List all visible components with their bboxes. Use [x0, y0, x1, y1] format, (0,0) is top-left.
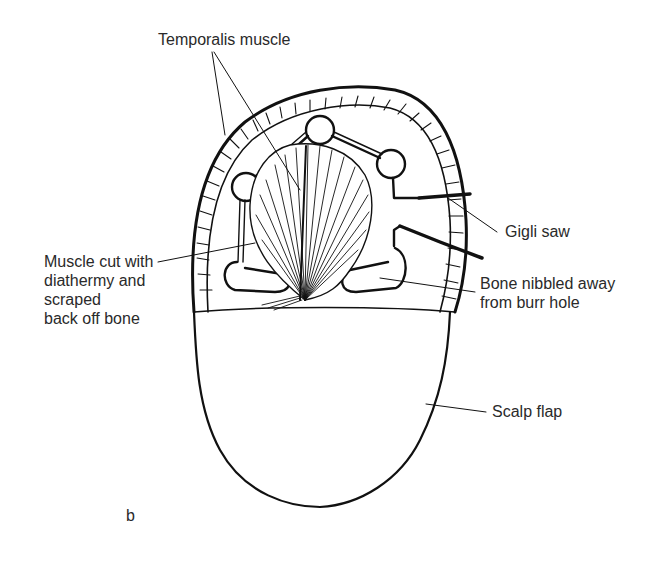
- label-temporalis-muscle: Temporalis muscle: [158, 30, 290, 49]
- gigli-saw-upper: [419, 194, 470, 198]
- label-gigli-saw: Gigli saw: [505, 222, 570, 241]
- panel-letter: b: [126, 506, 135, 525]
- label-muscle-cut: Muscle cut with diathermy and scraped ba…: [44, 252, 153, 328]
- scalp-incision: [194, 308, 455, 313]
- label-scalp-flap: Scalp flap: [492, 402, 562, 421]
- craniotomy-diagram: Temporalis muscle Muscle cut with diathe…: [0, 0, 650, 564]
- gigli-saw-lower: [400, 226, 482, 258]
- label-bone-nibbled: Bone nibbled away from burr hole: [480, 274, 615, 312]
- scalp-flap: [194, 312, 450, 507]
